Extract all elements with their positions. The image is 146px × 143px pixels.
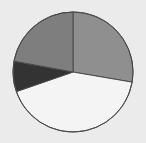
pie-slice-1: [73, 12, 133, 82]
pie-chart-svg: [0, 0, 146, 143]
pie-chart: [0, 0, 146, 143]
pie-slice-4: [14, 12, 73, 72]
